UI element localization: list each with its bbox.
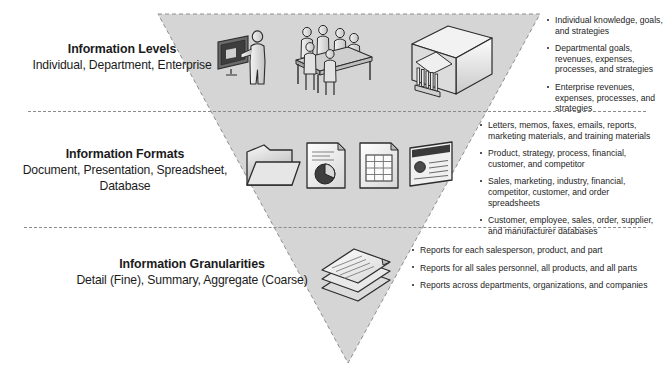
bullet-item: Reports across departments, organization…: [412, 280, 660, 291]
bullet-group-formats: Letters, memos, faxes, emails, reports, …: [480, 120, 660, 236]
bullet-text: Letters, memos, faxes, emails, reports, …: [488, 120, 650, 141]
diagram-canvas: Information Levels Individual, Departmen…: [0, 0, 670, 379]
tier-granularities-subtitle: Detail (Fine), Summary, Aggregate (Coars…: [74, 273, 310, 289]
bullet-dot-icon: [480, 219, 482, 221]
bullet-dot-icon: [480, 180, 482, 182]
tier-label-levels: Information Levels Individual, Departmen…: [6, 41, 238, 74]
bullet-dot-icon: [412, 249, 414, 251]
tier-granularities-title: Information Granularities: [74, 256, 310, 272]
bullet-text: Product, strategy, process, financial, c…: [488, 148, 626, 169]
bullet-dot-icon: [547, 47, 549, 49]
bullet-text: Reports for each salesperson, product, a…: [420, 245, 602, 255]
bullet-item: Letters, memos, faxes, emails, reports, …: [480, 120, 660, 141]
tier-formats-title: Information Formats: [6, 146, 244, 162]
bullet-item: Enterprise revenues, expenses, processes…: [547, 82, 665, 114]
presentation-piechart-page-icon: [307, 143, 345, 188]
bullet-group-levels: Individual knowledge, goals, and strateg…: [547, 15, 665, 114]
bullet-text: Departmental goals, revenues, expenses, …: [555, 43, 653, 74]
bullet-item: Departmental goals, revenues, expenses, …: [547, 43, 665, 75]
bullet-dot-icon: [480, 124, 482, 126]
tier-formats-subtitle: Document, Presentation, Spreadsheet, Dat…: [6, 163, 244, 195]
bullet-dot-icon: [547, 86, 549, 88]
bullet-item: Sales, marketing, industry, financial, c…: [480, 176, 660, 208]
bullet-item: Customer, employee, sales, order, suppli…: [480, 215, 660, 236]
bullet-dot-icon: [412, 266, 414, 268]
bullet-dot-icon: [412, 284, 414, 286]
bullet-text: Customer, employee, sales, order, suppli…: [488, 215, 653, 236]
bullet-text: Sales, marketing, industry, financial, c…: [488, 176, 625, 207]
document-folder-icon: [247, 145, 300, 185]
bullet-text: Reports across departments, organization…: [420, 280, 647, 290]
tier-label-granularities: Information Granularities Detail (Fine),…: [74, 256, 310, 289]
bullet-item: Product, strategy, process, financial, c…: [480, 148, 660, 169]
bullet-text: Individual knowledge, goals, and strateg…: [555, 15, 663, 36]
bullet-dot-icon: [547, 19, 549, 21]
tier-levels-title: Information Levels: [6, 41, 238, 57]
tier-label-formats: Information Formats Document, Presentati…: [6, 146, 244, 195]
tier-levels-subtitle: Individual, Department, Enterprise: [6, 58, 238, 74]
bullet-text: Enterprise revenues, expenses, processes…: [555, 82, 655, 113]
database-card-icon: [410, 142, 452, 186]
spreadsheet-grid-page-icon: [360, 143, 398, 188]
bullet-item: Reports for each salesperson, product, a…: [412, 245, 660, 256]
bullet-dot-icon: [480, 152, 482, 154]
bullet-item: Individual knowledge, goals, and strateg…: [547, 15, 665, 36]
bullet-group-granularities: Reports for each salesperson, product, a…: [412, 245, 660, 291]
bullet-item: Reports for all sales personnel, all pro…: [412, 263, 660, 274]
bullet-text: Reports for all sales personnel, all pro…: [420, 263, 637, 273]
